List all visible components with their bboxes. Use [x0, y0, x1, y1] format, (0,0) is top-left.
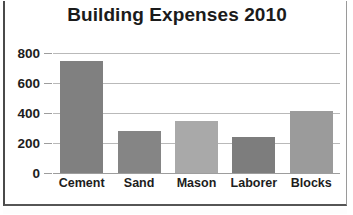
plot-area — [53, 53, 340, 173]
y-axis-tick-label: 200 — [17, 136, 40, 151]
bar — [290, 111, 333, 173]
scan-edge-band — [3, 208, 347, 214]
x-axis-category-label: Mason — [168, 176, 225, 190]
x-axis-baseline — [53, 173, 340, 174]
y-axis-tick-mark — [44, 83, 52, 84]
bar — [60, 61, 103, 174]
y-axis-tick-mark — [44, 143, 52, 144]
y-axis-tick-mark — [44, 53, 52, 54]
y-axis-tick-label: 600 — [17, 76, 40, 91]
gridline — [53, 53, 340, 54]
y-axis-tick-label: 400 — [17, 106, 40, 121]
bar — [232, 137, 275, 173]
x-axis-category-label: Sand — [110, 176, 167, 190]
y-axis: 8006004002000 — [0, 0, 53, 215]
x-axis-category-label: Blocks — [283, 176, 340, 190]
frame-top-edge — [3, 0, 347, 1]
x-axis-labels: CementSandMasonLaborerBlocks — [53, 176, 340, 198]
y-axis-tick-label: 0 — [32, 166, 40, 181]
bar — [118, 131, 161, 173]
y-axis-tick-label: 800 — [17, 46, 40, 61]
chart-screenshot: Building Expenses 2010 8006004002000 Cem… — [0, 0, 353, 215]
y-axis-tick-mark — [44, 173, 52, 174]
x-axis-category-label: Cement — [53, 176, 110, 190]
y-axis-tick-mark — [44, 113, 52, 114]
chart-title: Building Expenses 2010 — [12, 4, 342, 26]
bar — [175, 121, 218, 174]
x-axis-category-label: Laborer — [225, 176, 282, 190]
